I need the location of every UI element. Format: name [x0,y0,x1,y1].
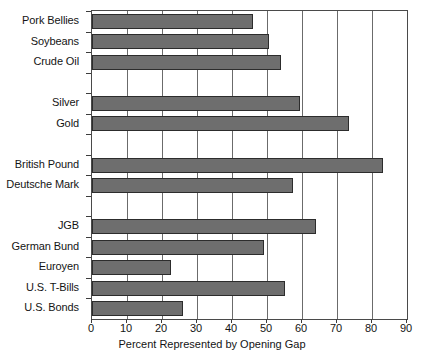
x-tick-label: 60 [295,322,307,334]
bar [92,281,285,296]
x-tick-label: 40 [225,322,237,334]
y-tick-mark [86,114,91,115]
y-tick-mark [86,216,91,217]
category-label: Euroyen [39,256,79,277]
category-label: Crude Oil [33,51,79,72]
category-label: Deutsche Mark [6,174,79,195]
category-label: Gold [56,113,79,134]
category-label: U.S. T-Bills [26,277,79,298]
category-label: British Pound [15,154,79,175]
bar [92,158,383,173]
plot-area [91,10,408,320]
bar [92,260,171,275]
horizontal-bar-chart: Pork BelliesSoybeansCrude OilSilverGoldB… [0,0,424,358]
x-tick-label: 70 [330,322,342,334]
bar [92,116,349,131]
bar [92,55,281,70]
category-label: German Bund [12,236,79,257]
y-tick-mark [86,196,91,197]
y-tick-mark [86,93,91,94]
bar [92,178,293,193]
category-label: Soybeans [31,31,79,52]
bar [92,219,316,234]
x-tick-label: 20 [155,322,167,334]
y-tick-mark [86,278,91,279]
x-tick-label: 0 [88,322,94,334]
y-tick-mark [86,32,91,33]
bar [92,240,264,255]
category-label: U.S. Bonds [24,297,79,318]
category-axis-labels: Pork BelliesSoybeansCrude OilSilverGoldB… [0,10,85,318]
x-tick-label: 80 [365,322,377,334]
x-tick-label: 50 [260,322,272,334]
y-tick-mark [86,257,91,258]
x-tick-label: 90 [400,322,412,334]
y-tick-mark [86,52,91,53]
category-label: Silver [52,92,79,113]
x-tick-label: 30 [190,322,202,334]
category-label: Pork Bellies [22,10,79,31]
y-tick-mark [86,175,91,176]
y-tick-mark [86,155,91,156]
y-tick-mark [86,237,91,238]
y-tick-mark [86,11,91,12]
x-tick-label: 10 [120,322,132,334]
bar [92,14,253,29]
x-axis-title: Percent Represented by Opening Gap [0,338,424,350]
y-tick-mark [86,134,91,135]
y-tick-mark [86,73,91,74]
y-tick-mark [86,298,91,299]
bar [92,34,269,49]
category-label: JGB [58,215,79,236]
bar [92,301,183,316]
bar [92,96,300,111]
